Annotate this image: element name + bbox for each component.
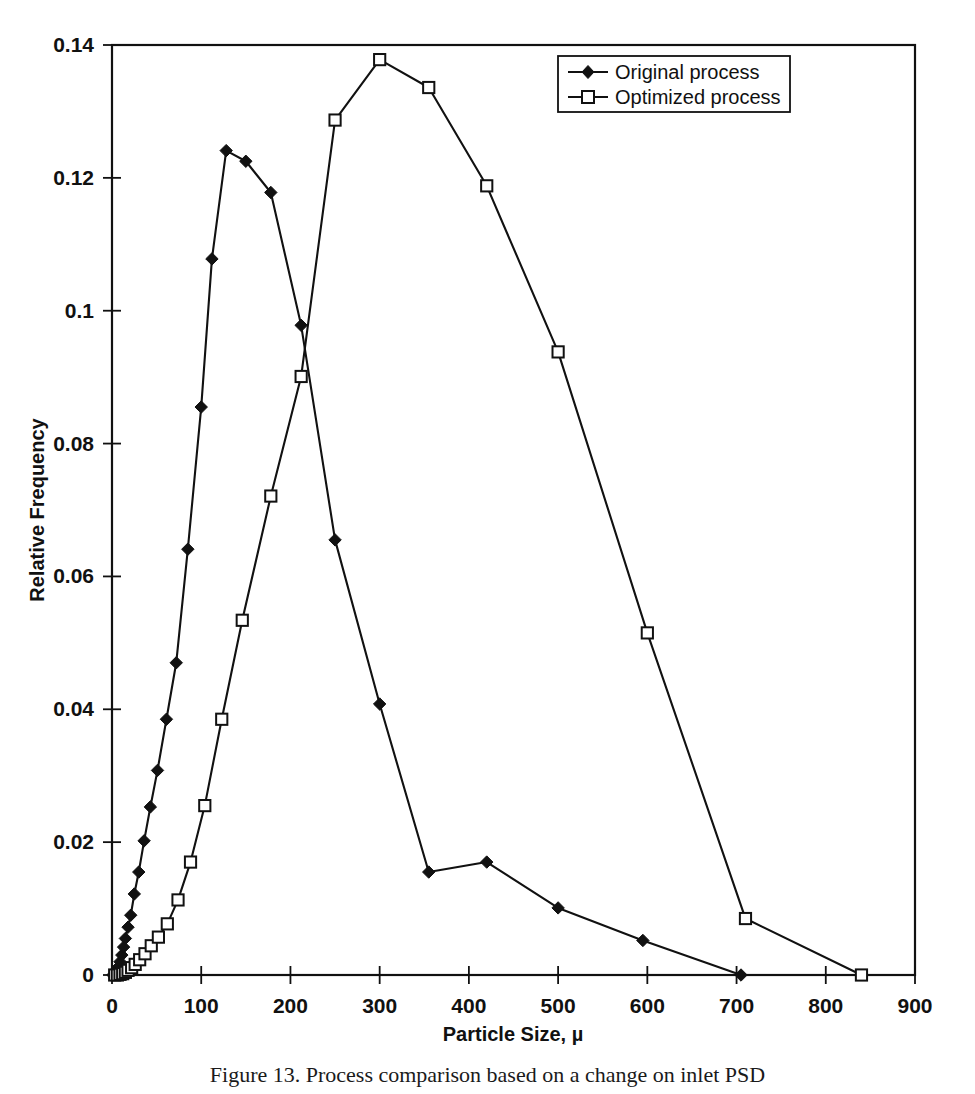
x-tick-label: 500 bbox=[541, 994, 576, 1017]
open-square-marker bbox=[374, 54, 385, 65]
filled-diamond-marker bbox=[206, 253, 218, 265]
open-square-marker bbox=[296, 371, 307, 382]
filled-diamond-marker bbox=[125, 909, 137, 921]
y-tick-label: 0.02 bbox=[53, 830, 94, 853]
filled-diamond-marker bbox=[151, 764, 163, 776]
filled-diamond-marker bbox=[295, 319, 307, 331]
y-axis-title: Relative Frequency bbox=[26, 417, 48, 601]
y-tick-label: 0.06 bbox=[53, 564, 94, 587]
x-tick-label: 100 bbox=[184, 994, 219, 1017]
filled-diamond-marker bbox=[637, 934, 649, 946]
open-square-marker bbox=[216, 714, 227, 725]
x-tick-label: 400 bbox=[451, 994, 486, 1017]
y-tick-label: 0.04 bbox=[53, 697, 94, 720]
series-optimized-process bbox=[109, 54, 867, 981]
open-square-marker bbox=[740, 913, 751, 924]
open-square-marker bbox=[481, 180, 492, 191]
y-tick-label: 0.08 bbox=[53, 432, 94, 455]
filled-diamond-marker bbox=[195, 401, 207, 413]
figure-caption: Figure 13. Process comparison based on a… bbox=[0, 1062, 975, 1088]
open-square-marker bbox=[199, 800, 210, 811]
legend-label-original: Original process bbox=[615, 61, 760, 83]
series-line bbox=[115, 60, 862, 975]
y-tick-label: 0 bbox=[82, 963, 94, 986]
open-square-icon bbox=[582, 91, 594, 103]
open-square-marker bbox=[185, 856, 196, 867]
filled-diamond-marker bbox=[220, 144, 232, 156]
filled-diamond-marker bbox=[144, 801, 156, 813]
filled-diamond-marker bbox=[182, 543, 194, 555]
y-axis-tick-labels: 00.020.040.060.080.10.120.14 bbox=[53, 33, 94, 986]
filled-diamond-marker bbox=[373, 698, 385, 710]
x-tick-label: 900 bbox=[897, 994, 932, 1017]
filled-diamond-marker bbox=[481, 856, 493, 868]
open-square-marker bbox=[265, 490, 276, 501]
filled-diamond-marker bbox=[128, 888, 140, 900]
filled-diamond-marker bbox=[552, 902, 564, 914]
open-square-marker bbox=[153, 932, 164, 943]
chart-legend: Original process Optimized process bbox=[558, 56, 790, 112]
x-tick-label: 700 bbox=[719, 994, 754, 1017]
open-square-marker bbox=[162, 918, 173, 929]
x-tick-label: 300 bbox=[362, 994, 397, 1017]
figure-container: 00.020.040.060.080.10.120.14 01002003004… bbox=[0, 0, 975, 1094]
series-line bbox=[113, 151, 741, 975]
y-tick-label: 0.14 bbox=[53, 33, 94, 56]
series-original-process bbox=[107, 144, 748, 981]
x-axis-title: Particle Size, µ bbox=[443, 1023, 583, 1045]
x-axis-tick-labels: 0100200300400500600700800900 bbox=[106, 994, 932, 1017]
open-square-marker bbox=[329, 114, 340, 125]
filled-diamond-marker bbox=[329, 534, 341, 546]
filled-diamond-marker bbox=[160, 713, 172, 725]
y-tick-label: 0.1 bbox=[65, 299, 95, 322]
legend-label-optimized: Optimized process bbox=[615, 86, 781, 108]
plot-frame bbox=[112, 45, 915, 975]
open-square-marker bbox=[172, 894, 183, 905]
filled-diamond-marker bbox=[423, 866, 435, 878]
filled-diamond-marker bbox=[122, 921, 134, 933]
open-square-marker bbox=[423, 82, 434, 93]
x-tick-label: 600 bbox=[630, 994, 665, 1017]
x-tick-label: 200 bbox=[273, 994, 308, 1017]
x-tick-label: 800 bbox=[808, 994, 843, 1017]
open-square-marker bbox=[642, 627, 653, 638]
filled-diamond-marker bbox=[138, 835, 150, 847]
filled-diamond-marker bbox=[170, 657, 182, 669]
x-tick-label: 0 bbox=[106, 994, 118, 1017]
filled-diamond-marker bbox=[133, 866, 145, 878]
open-square-marker bbox=[553, 346, 564, 357]
data-series-group bbox=[107, 54, 867, 981]
open-square-marker bbox=[237, 615, 248, 626]
open-square-marker bbox=[856, 969, 867, 980]
particle-size-distribution-chart: 00.020.040.060.080.10.120.14 01002003004… bbox=[0, 0, 975, 1050]
y-tick-label: 0.12 bbox=[53, 166, 94, 189]
